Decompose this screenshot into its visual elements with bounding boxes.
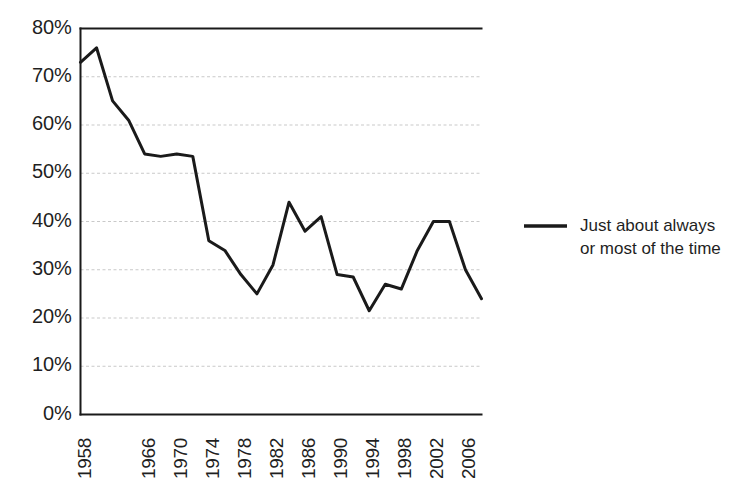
x-tick-label: 1978 [234,437,256,478]
y-tick-label: 50% [32,160,71,183]
y-tick-label: 0% [43,402,72,425]
x-tick-label: 2006 [458,437,480,478]
x-tick-label: 1982 [266,437,288,478]
x-tick-label: 1998 [394,437,416,478]
x-tick-label: 1966 [138,437,160,478]
chart-figure: 80%70%60%50%40%30%20%10%0% 1958196619701… [0,0,745,494]
y-tick-label: 60% [32,112,71,135]
x-tick-label: 1958 [74,437,96,478]
y-tick-label: 10% [32,353,71,376]
x-tick-label: 2002 [426,437,448,478]
x-tick-label: 1986 [298,437,320,478]
y-tick-label: 20% [32,305,71,328]
y-tick-label: 80% [32,16,71,39]
x-tick-label: 1970 [170,437,192,478]
legend-label-line1: Just about always [580,214,715,237]
y-tick-label: 30% [32,257,71,280]
y-tick-label: 70% [32,64,71,87]
x-tick-label: 1990 [330,437,352,478]
y-tick-label: 40% [32,209,71,232]
x-tick-label: 1974 [202,437,224,478]
legend-label-line2: or most of the time [580,237,721,260]
x-tick-label: 1994 [362,437,384,478]
